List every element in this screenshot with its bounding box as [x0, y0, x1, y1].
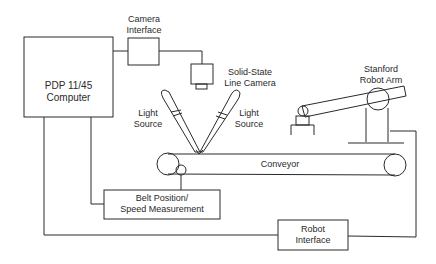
diagram-canvas [0, 0, 436, 264]
interface-camera-link [159, 51, 202, 64]
robot-interface-label: Robot Interface [278, 224, 348, 246]
camera-interface-box [128, 38, 159, 65]
robot-interface-arm-link [348, 131, 416, 237]
light-source-right-label: Light Source [229, 108, 269, 130]
robot-arm-icon [291, 86, 406, 143]
robot-arm-label: Stanford Robot Arm [349, 64, 413, 86]
line-camera-lens [196, 84, 207, 89]
belt-measurement-label: Belt Position/ Speed Measurement [104, 193, 220, 215]
line-camera-label: Solid-State Line Camera [215, 67, 285, 89]
conveyor-label: Conveyor [240, 159, 320, 170]
computer-label: PDP 11/45 Computer [24, 80, 113, 104]
computer-belt-link [91, 117, 104, 204]
computer-robot-interface-link [44, 117, 278, 235]
camera-interface-label: Camera Interface [114, 14, 174, 36]
computer-box [24, 37, 113, 117]
line-camera-body [191, 64, 213, 84]
light-source-left-label: Light Source [128, 108, 168, 130]
